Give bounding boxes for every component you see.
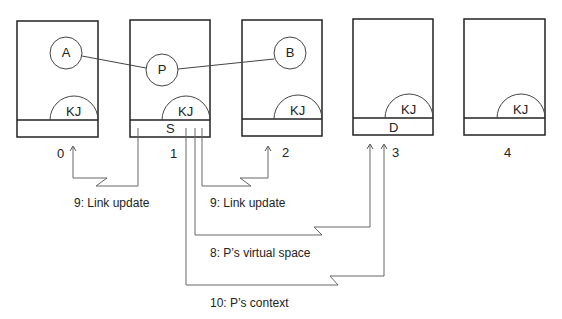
node-number-1: 1 xyxy=(170,146,177,161)
node-number-2: 2 xyxy=(282,145,289,160)
link-P-B xyxy=(178,59,274,69)
kernel-label-4: KJ xyxy=(513,102,528,117)
kernel-label-0: KJ xyxy=(66,104,81,119)
node-number-4: 4 xyxy=(504,145,511,160)
process-label-B: B xyxy=(274,45,306,60)
message-label-context: 10: P’s context xyxy=(210,296,289,310)
process-label-P: P xyxy=(146,62,178,77)
kernel-label-2: KJ xyxy=(290,103,305,118)
kernel-label-1: KJ xyxy=(178,104,193,119)
node-number-0: 0 xyxy=(57,146,64,161)
slot-label-3: D xyxy=(389,120,398,135)
link-A-P xyxy=(82,56,146,68)
slot-label-1: S xyxy=(166,121,175,136)
message-label-link-update-0: 9: Link update xyxy=(74,196,149,210)
message-label-link-update-2: 9: Link update xyxy=(210,196,285,210)
kernel-label-3: KJ xyxy=(401,102,416,117)
node-number-3: 3 xyxy=(392,145,399,160)
message-label-virtual-space: 8: P’s virtual space xyxy=(210,246,311,260)
process-label-A: A xyxy=(50,45,82,60)
